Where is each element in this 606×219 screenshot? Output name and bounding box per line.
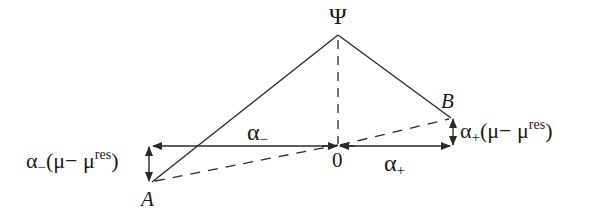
expr-sub: + — [472, 129, 480, 145]
label-origin: 0 — [332, 150, 343, 171]
expr-sub: − — [38, 159, 46, 175]
alpha-sub-plus: + — [397, 162, 405, 178]
expr-sup-res: res — [529, 117, 545, 132]
expr-close: ) — [545, 118, 552, 143]
label-point-B: B — [441, 91, 454, 112]
dashed-A-to-origin — [155, 145, 338, 181]
label-point-A: A — [141, 189, 154, 210]
expr-alpha: α — [460, 118, 472, 143]
label-right-offset: α+(μ− μres) — [460, 120, 552, 142]
alpha-base: α — [247, 119, 260, 145]
expr-mu: (μ− μ — [480, 118, 529, 143]
label-alpha-plus: α+ — [384, 151, 405, 175]
expr-sup-res: res — [95, 147, 111, 162]
dashed-origin-to-B — [340, 119, 449, 145]
diagram-lines — [0, 0, 606, 219]
line-apex-to-B — [338, 35, 451, 118]
label-left-offset: α−(μ− μres) — [26, 150, 118, 172]
alpha-base: α — [384, 150, 397, 176]
label-alpha-minus: α− — [247, 120, 268, 144]
label-psi: Ψ — [329, 4, 347, 28]
expr-close: ) — [111, 148, 118, 173]
line-apex-to-A — [152, 35, 338, 182]
diagram-canvas: Ψ A B 0 α− α+ α−(μ− μres) α+(μ− μres) — [0, 0, 606, 219]
expr-mu: (μ− μ — [46, 148, 95, 173]
alpha-sub-minus: − — [260, 131, 268, 147]
expr-alpha: α — [26, 148, 38, 173]
